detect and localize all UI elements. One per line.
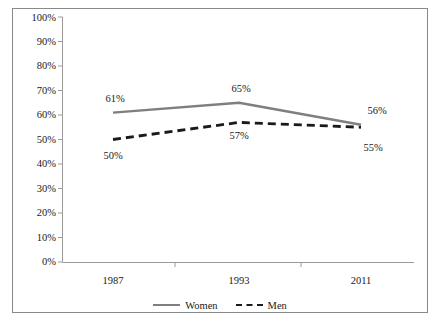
data-label-women-2011: 56% — [360, 105, 394, 116]
x-tick-label-2011: 2011 — [331, 275, 391, 286]
legend-item-men[interactable]: Men — [236, 300, 287, 311]
chart-border — [12, 8, 428, 313]
legend-label-women: Women — [185, 300, 217, 311]
data-label-women-1993: 65% — [224, 83, 258, 94]
y-tick-label-30: 30% — [18, 183, 56, 194]
x-tick-label-1993: 1993 — [209, 275, 269, 286]
x-tick-label-1987: 1987 — [83, 275, 143, 286]
line-chart-figure: 100% 90% 80% 70% 60% 50% 40% 30% 20% 10%… — [0, 0, 442, 329]
data-label-men-2011: 55% — [356, 142, 390, 153]
y-tick-label-100: 100% — [18, 12, 56, 23]
data-label-men-1993: 57% — [222, 130, 256, 141]
y-tick-label-20: 20% — [18, 207, 56, 218]
y-tick-label-60: 60% — [18, 109, 56, 120]
data-label-men-1987: 50% — [96, 150, 130, 161]
y-tick-label-50: 50% — [18, 134, 56, 145]
y-tick-label-40: 40% — [18, 158, 56, 169]
y-tick-label-80: 80% — [18, 60, 56, 71]
chart-legend: Women Men — [12, 297, 428, 313]
y-tick-label-70: 70% — [18, 85, 56, 96]
y-tick-label-10: 10% — [18, 232, 56, 243]
y-tick-label-0: 0% — [18, 256, 56, 267]
legend-item-women[interactable]: Women — [153, 300, 217, 311]
legend-line-solid-icon — [153, 304, 180, 306]
legend-label-men: Men — [268, 300, 287, 311]
legend-line-dashed-icon — [236, 304, 263, 306]
y-tick-label-90: 90% — [18, 36, 56, 47]
data-label-women-1987: 61% — [98, 93, 132, 104]
